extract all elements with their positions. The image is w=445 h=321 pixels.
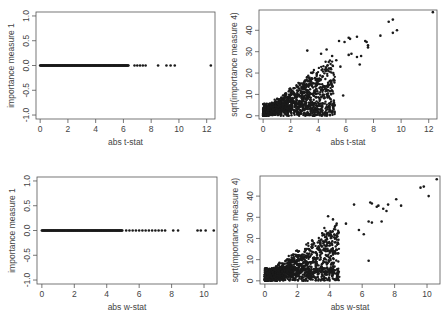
data-point bbox=[327, 215, 330, 218]
data-point bbox=[320, 53, 323, 56]
figure-canvas: 024681012-1.0-0.50.00.51.0abs t-statimpo… bbox=[0, 0, 445, 321]
chart-panel-top-right: 024681012010203040abs t-statsqrt(importa… bbox=[229, 10, 437, 147]
y-tick-label: -1.0 bbox=[22, 272, 32, 287]
x-tick-label: 6 bbox=[137, 289, 142, 299]
data-point bbox=[154, 229, 157, 232]
y-tick-label: 30 bbox=[245, 212, 255, 222]
x-axis-label: abs w-stat bbox=[108, 302, 147, 312]
data-point bbox=[338, 40, 341, 43]
data-point bbox=[125, 229, 128, 232]
data-point bbox=[345, 222, 348, 225]
y-tick-label: 0.5 bbox=[22, 200, 32, 212]
data-point bbox=[131, 229, 134, 232]
data-point bbox=[151, 229, 154, 232]
y-tick-label: 0.0 bbox=[21, 59, 31, 71]
y-tick-label: 0 bbox=[244, 113, 254, 118]
x-tick-label: 0 bbox=[38, 124, 43, 134]
x-tick-label: 10 bbox=[199, 289, 209, 299]
data-point bbox=[362, 233, 365, 236]
data-point bbox=[138, 229, 141, 232]
y-tick-label: 10 bbox=[245, 255, 255, 265]
x-tick-label: 10 bbox=[422, 289, 432, 299]
data-point bbox=[387, 203, 390, 206]
data-point bbox=[432, 11, 435, 14]
data-point bbox=[199, 229, 202, 232]
data-point bbox=[360, 55, 363, 58]
x-tick-label: 10 bbox=[174, 124, 184, 134]
y-tick-label: 1.0 bbox=[22, 175, 32, 187]
chart-panel-top-left: 024681012-1.0-0.50.00.51.0abs t-statimpo… bbox=[6, 10, 215, 147]
x-tick-label: 10 bbox=[396, 124, 406, 134]
x-tick-label: 8 bbox=[392, 289, 397, 299]
data-point bbox=[196, 229, 199, 232]
data-point bbox=[331, 55, 334, 58]
data-point bbox=[396, 29, 399, 32]
data-point bbox=[392, 32, 395, 35]
y-tick-label: 0.5 bbox=[21, 35, 31, 47]
x-tick-label: 4 bbox=[327, 289, 332, 299]
x-tick-label: 8 bbox=[371, 124, 376, 134]
data-point bbox=[157, 64, 160, 67]
x-tick-label: 12 bbox=[202, 124, 212, 134]
data-point bbox=[332, 218, 335, 221]
data-point bbox=[177, 229, 180, 232]
data-point bbox=[350, 53, 353, 56]
y-tick-label: 20 bbox=[244, 68, 254, 78]
data-point bbox=[306, 49, 309, 52]
x-tick-label: 2 bbox=[288, 124, 293, 134]
data-point bbox=[371, 202, 374, 205]
y-axis-label: sqrt(importance measure 4) bbox=[229, 12, 239, 117]
data-point bbox=[419, 186, 422, 189]
x-tick-label: 6 bbox=[121, 124, 126, 134]
y-tick-label: -0.5 bbox=[21, 83, 31, 98]
y-tick-label: 20 bbox=[245, 233, 255, 243]
x-tick-label: 12 bbox=[424, 124, 434, 134]
data-point bbox=[358, 229, 361, 232]
x-tick-label: 2 bbox=[72, 289, 77, 299]
x-tick-label: 0 bbox=[262, 289, 267, 299]
data-point bbox=[141, 229, 144, 232]
data-point bbox=[356, 35, 359, 38]
data-point bbox=[379, 34, 382, 37]
data-point bbox=[157, 229, 160, 232]
data-point bbox=[392, 18, 395, 21]
data-point bbox=[435, 178, 438, 181]
data-point bbox=[365, 41, 368, 44]
data-point bbox=[371, 221, 374, 224]
y-axis-label: importance measure 1 bbox=[7, 188, 17, 273]
data-point bbox=[335, 59, 338, 62]
data-point bbox=[377, 204, 380, 207]
data-point bbox=[164, 229, 167, 232]
data-point bbox=[135, 229, 138, 232]
x-axis-label: abs t-stat bbox=[108, 137, 144, 147]
data-point bbox=[142, 64, 145, 67]
y-tick-label: 10 bbox=[244, 89, 254, 99]
data-point bbox=[347, 54, 350, 57]
y-tick-label: 1.0 bbox=[21, 10, 31, 22]
data-point bbox=[325, 48, 328, 51]
data-points bbox=[262, 11, 434, 117]
data-point bbox=[395, 198, 398, 201]
data-point bbox=[427, 195, 430, 198]
x-tick-label: 6 bbox=[360, 289, 365, 299]
y-tick-label: 0 bbox=[245, 278, 255, 283]
data-point bbox=[343, 41, 346, 44]
data-point bbox=[210, 64, 213, 67]
y-tick-label: 30 bbox=[244, 47, 254, 57]
x-tick-label: 4 bbox=[93, 124, 98, 134]
data-point bbox=[422, 185, 425, 188]
data-point bbox=[349, 38, 352, 41]
data-point bbox=[212, 229, 215, 232]
data-point bbox=[136, 64, 139, 67]
data-point bbox=[144, 64, 147, 67]
x-tick-label: 0 bbox=[39, 289, 44, 299]
data-point bbox=[172, 229, 175, 232]
data-point bbox=[367, 46, 370, 49]
y-axis-label: importance measure 1 bbox=[6, 23, 16, 108]
x-axis-label: abs t-stat bbox=[331, 137, 367, 147]
data-point bbox=[342, 94, 345, 97]
data-points bbox=[264, 178, 438, 282]
data-points bbox=[41, 229, 215, 232]
data-point bbox=[148, 229, 151, 232]
data-point bbox=[173, 64, 176, 67]
